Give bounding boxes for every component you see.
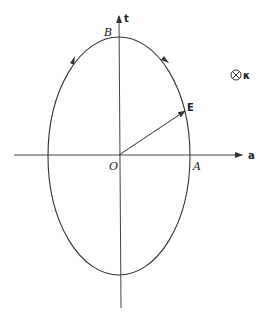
label-e-vector: E bbox=[187, 102, 194, 113]
vertical-axis-t bbox=[119, 16, 121, 308]
polarization-diagram: B t E O A a κ bbox=[0, 0, 265, 326]
label-b: B bbox=[103, 26, 112, 39]
label-kappa: κ bbox=[243, 70, 250, 81]
label-a-point: A bbox=[192, 160, 201, 173]
label-t-axis: t bbox=[124, 13, 129, 24]
label-a-axis: a bbox=[248, 150, 255, 161]
label-o-origin: O bbox=[109, 160, 118, 173]
wave-vector-into-page-icon bbox=[231, 70, 241, 80]
e-vector-arrow bbox=[119, 111, 185, 155]
